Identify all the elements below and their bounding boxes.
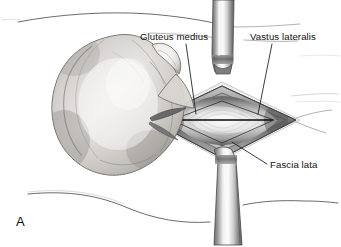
retractor-bottom-band [215,155,237,164]
wound-highlight [194,115,262,133]
illustration-canvas: Gluteus medius Vastus lateralis Fascia l… [0,0,341,247]
retractor-top-band [212,55,234,64]
retractor-top [212,0,234,74]
label-vastus-lateralis: Vastus lateralis [250,31,316,42]
panel-letter: A [16,214,25,229]
label-gluteus-medius: Gluteus medius [140,31,208,42]
specimen-highlight-upper [106,58,150,110]
label-fascia-lata: Fascia lata [270,159,318,170]
surgical-illustration-figure: Gluteus medius Vastus lateralis Fascia l… [0,0,341,247]
